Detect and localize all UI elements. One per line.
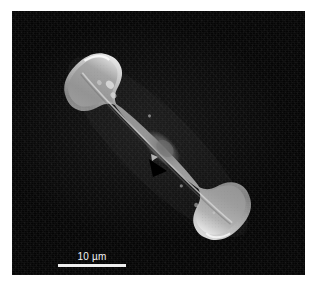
figure-root: 10 µm	[0, 0, 318, 286]
micrograph-panel: 10 µm	[12, 11, 305, 275]
valve-body	[53, 42, 262, 251]
diatom-specimen	[12, 11, 305, 275]
diatom-specimen-svg	[12, 11, 305, 275]
